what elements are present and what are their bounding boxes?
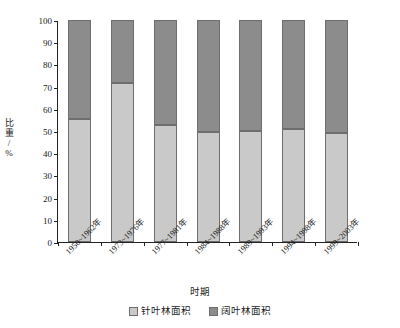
x-axis-tick	[101, 242, 102, 246]
bar-column[interactable]	[197, 20, 220, 242]
y-axis-tick	[54, 65, 58, 66]
y-axis-title-char: /	[2, 138, 16, 148]
y-axis-title-char: 比	[2, 118, 16, 128]
y-axis-title-text: 比重/%	[2, 118, 16, 158]
y-axis-tick-label: 20	[43, 194, 52, 203]
legend-item[interactable]: 阔叶林面积	[209, 306, 271, 317]
x-axis-tick	[144, 242, 145, 246]
y-axis-tick-label: 50	[43, 128, 52, 137]
bar-segment-broadleaf[interactable]	[197, 20, 220, 132]
y-axis-tick-label: 40	[43, 150, 52, 159]
legend-swatch-icon	[209, 307, 218, 316]
legend-swatch-icon	[129, 307, 138, 316]
y-axis-tick-label: 60	[43, 105, 52, 114]
stacked-bar-chart: 比重/% 0102030405060708090100 时期 针叶林面积阔叶林面…	[0, 0, 400, 328]
bar-segment-broadleaf[interactable]	[239, 20, 262, 131]
bar-column[interactable]	[325, 20, 348, 242]
y-axis-tick-label: 10	[43, 216, 52, 225]
y-axis-tick-label: 80	[43, 61, 52, 70]
bar-column[interactable]	[282, 20, 305, 242]
bar-segment-broadleaf[interactable]	[68, 20, 91, 119]
y-axis-tick-label: 0	[48, 239, 53, 248]
y-axis-tick	[54, 176, 58, 177]
y-axis-title-char: %	[2, 148, 16, 158]
x-axis-tick	[229, 242, 230, 246]
x-axis-tick	[315, 242, 316, 246]
y-axis-tick-label: 100	[39, 17, 53, 26]
y-axis-tick	[54, 43, 58, 44]
bar-segment-broadleaf[interactable]	[282, 20, 305, 129]
plot-area: 0102030405060708090100	[57, 21, 357, 243]
y-axis-tick-label: 30	[43, 172, 52, 181]
y-axis-tick	[54, 132, 58, 133]
bar-column[interactable]	[239, 20, 262, 242]
bar-segment-broadleaf[interactable]	[111, 20, 134, 83]
y-axis-tick-label: 70	[43, 83, 52, 92]
y-axis-tick	[54, 88, 58, 89]
bar-column[interactable]	[111, 20, 134, 242]
y-axis-tick	[54, 154, 58, 155]
x-axis-title: 时期	[0, 287, 400, 298]
legend: 针叶林面积阔叶林面积	[0, 306, 400, 317]
legend-item[interactable]: 针叶林面积	[129, 306, 191, 317]
y-axis-tick	[54, 221, 58, 222]
bar-segment-broadleaf[interactable]	[325, 20, 348, 133]
y-axis-tick	[54, 21, 58, 22]
bar-column[interactable]	[68, 20, 91, 242]
y-axis-tick-label: 90	[43, 39, 52, 48]
x-axis-tick	[58, 242, 59, 246]
y-axis-title-char: 重	[2, 128, 16, 138]
bar-segment-broadleaf[interactable]	[154, 20, 177, 125]
legend-label: 针叶林面积	[141, 306, 191, 317]
bar-column[interactable]	[154, 20, 177, 242]
y-axis-title: 比重/%	[2, 118, 16, 158]
x-axis-tick	[358, 242, 359, 246]
legend-label: 阔叶林面积	[221, 306, 271, 317]
x-axis-tick	[272, 242, 273, 246]
y-axis-tick	[54, 110, 58, 111]
x-axis-tick	[187, 242, 188, 246]
bar-segment-coniferous[interactable]	[111, 83, 134, 242]
y-axis-tick	[54, 199, 58, 200]
